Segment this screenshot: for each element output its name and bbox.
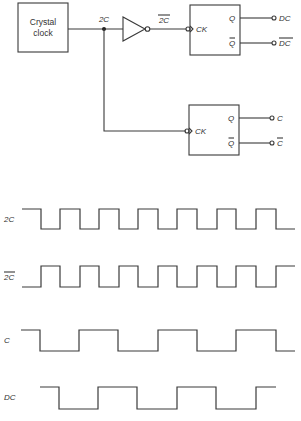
flipflop-top: CK Q Q DC DC: [186, 5, 293, 55]
c-output-label: C: [277, 114, 283, 123]
qbar-label: Q: [229, 39, 235, 48]
waveform-label-c: C: [4, 336, 10, 345]
inverter-triangle-icon: [123, 17, 145, 41]
c-bar-output-label: C: [277, 139, 283, 148]
waveform-1: [22, 266, 295, 287]
output-terminal-icon: [272, 41, 276, 45]
q-label: Q: [229, 14, 235, 23]
flipflop-divider-diagram: Crystal clock 2C 2C CK Q Q DC DC CK Q: [0, 0, 301, 421]
output-terminal-icon: [270, 141, 274, 145]
waveform-3: [40, 387, 276, 409]
q-label: Q: [228, 114, 234, 123]
waveform-0: [22, 209, 295, 229]
crystal-clock-label-2: clock: [33, 28, 53, 38]
output-terminal-icon: [270, 116, 274, 120]
qbar-label: Q: [228, 139, 234, 148]
output-terminal-icon: [272, 16, 276, 20]
signal-2c-bar-label: 2C: [158, 16, 169, 25]
branch-clock-wire: [104, 29, 186, 131]
waveform-label-dc: DC: [4, 393, 16, 402]
crystal-clock-block: Crystal clock: [18, 3, 68, 52]
signal-2c-label: 2C: [98, 15, 109, 24]
ck-label: CK: [195, 127, 207, 136]
crystal-clock-label-1: Crystal: [30, 17, 57, 27]
ck-label: CK: [196, 25, 208, 34]
dc-output-label: DC: [279, 14, 291, 23]
timing-waveforms: [21, 209, 295, 409]
inverter-gate: [123, 17, 150, 41]
flipflop-bottom: CK Q Q C C: [185, 105, 283, 155]
waveform-label-2c-bar: 2C: [3, 273, 14, 282]
waveform-label-2c: 2C: [3, 215, 14, 224]
waveform-2: [21, 330, 295, 351]
dc-bar-output-label: DC: [279, 39, 291, 48]
clock-bubble-icon: [186, 27, 190, 31]
